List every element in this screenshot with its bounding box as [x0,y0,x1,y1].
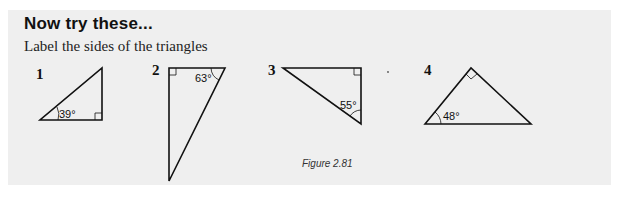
angle-label-4: 48° [443,110,460,122]
triangle-3 [283,68,361,124]
right-angle-marker [466,74,477,79]
right-angle-marker [169,68,176,75]
angle-label-2: 63° [195,72,212,84]
stray-dot [387,71,389,73]
triangle-4 [425,68,531,124]
figure-caption: Figure 2.81 [302,158,353,169]
triangle-2 [169,68,225,181]
right-angle-marker [354,68,361,75]
angle-label-1: 39° [59,108,76,120]
right-angle-marker [95,113,102,120]
angle-arc [211,68,219,80]
triangles-figure: 39° 63° 55° 48° [0,0,623,201]
angle-arc [435,112,441,124]
angle-label-3: 55° [340,99,357,111]
